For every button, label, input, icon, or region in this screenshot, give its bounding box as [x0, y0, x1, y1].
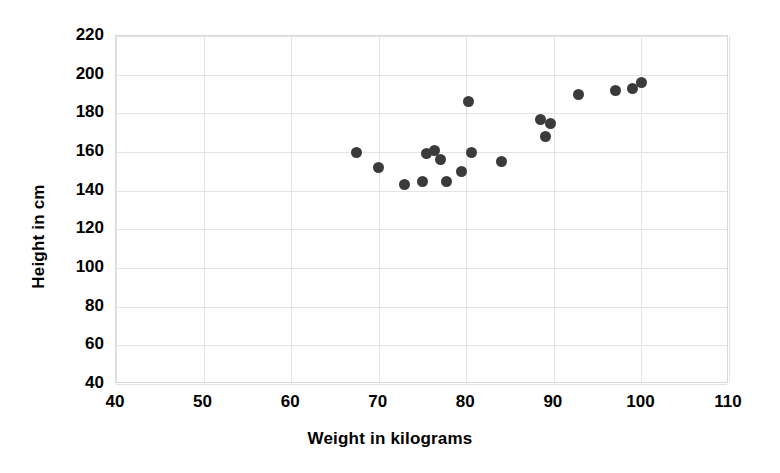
y-tick-label-80: 80	[46, 297, 104, 314]
gridline-vertical-100	[641, 36, 642, 382]
gridline-vertical-110	[729, 36, 730, 382]
data-point	[441, 176, 452, 187]
gridline-horizontal-60	[116, 345, 727, 346]
scatter-chart: Height in cm Weight in kilograms 4060801…	[0, 0, 780, 473]
y-tick-label-160: 160	[46, 142, 104, 159]
gridline-horizontal-180	[116, 113, 727, 114]
gridline-vertical-40	[116, 36, 117, 382]
gridline-horizontal-80	[116, 307, 727, 308]
gridline-vertical-80	[466, 36, 467, 382]
data-point	[636, 77, 647, 88]
gridline-horizontal-140	[116, 191, 727, 192]
data-point	[463, 96, 474, 107]
x-tick-label-50: 50	[193, 392, 212, 412]
data-point	[417, 176, 428, 187]
y-tick-label-40: 40	[46, 374, 104, 391]
y-tick-label-140: 140	[46, 181, 104, 198]
x-tick-label-60: 60	[281, 392, 300, 412]
data-point	[373, 162, 384, 173]
y-tick-label-200: 200	[46, 65, 104, 82]
data-point	[496, 156, 507, 167]
data-point	[540, 131, 551, 142]
x-tick-label-40: 40	[106, 392, 125, 412]
x-tick-label-80: 80	[456, 392, 475, 412]
data-point	[573, 89, 584, 100]
gridline-vertical-60	[291, 36, 292, 382]
gridline-vertical-70	[379, 36, 380, 382]
x-tick-label-90: 90	[543, 392, 562, 412]
data-point	[545, 118, 556, 129]
y-tick-label-180: 180	[46, 103, 104, 120]
gridline-horizontal-220	[116, 36, 727, 37]
x-tick-label-110: 110	[714, 392, 741, 412]
data-point	[456, 166, 467, 177]
y-tick-label-220: 220	[46, 26, 104, 43]
gridline-horizontal-120	[116, 229, 727, 230]
plot-area	[115, 35, 728, 383]
data-point	[435, 154, 446, 165]
data-point	[399, 179, 410, 190]
y-tick-label-120: 120	[46, 219, 104, 236]
gridline-vertical-50	[204, 36, 205, 382]
y-tick-label-100: 100	[46, 258, 104, 275]
gridline-horizontal-100	[116, 268, 727, 269]
y-tick-label-60: 60	[46, 335, 104, 352]
data-point	[610, 85, 621, 96]
x-tick-label-70: 70	[368, 392, 387, 412]
gridline-vertical-90	[554, 36, 555, 382]
data-point	[351, 147, 362, 158]
gridline-horizontal-200	[116, 75, 727, 76]
x-axis-title: Weight in kilograms	[0, 429, 780, 449]
x-tick-label-100: 100	[626, 392, 654, 412]
data-point	[466, 147, 477, 158]
gridline-horizontal-40	[116, 384, 727, 385]
